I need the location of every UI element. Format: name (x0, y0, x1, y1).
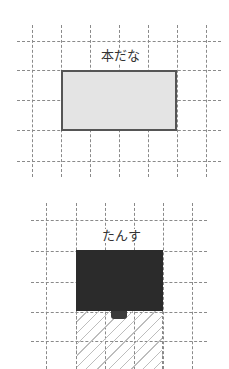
chest-shape (76, 250, 163, 311)
chest-label: たんす (97, 229, 145, 243)
grid-vline (46, 203, 47, 369)
grid-hline (31, 220, 207, 221)
drawer-clearance-area (76, 311, 163, 369)
grid-vline (206, 25, 207, 177)
grid-hline (17, 41, 221, 42)
grid-vline (32, 25, 33, 177)
grid-vline (177, 25, 178, 177)
bookshelf-label: 本だな (96, 49, 144, 63)
grid-vline (163, 203, 164, 369)
grid-hline (17, 161, 221, 162)
grid-vline (192, 203, 193, 369)
drawer-handle (111, 311, 127, 319)
bookshelf-shape (61, 70, 177, 131)
